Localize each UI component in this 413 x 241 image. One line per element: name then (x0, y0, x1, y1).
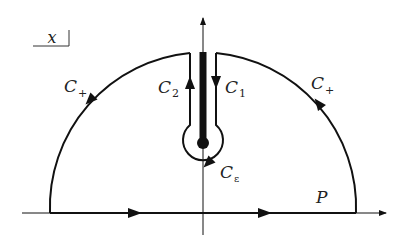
svg-text:C: C (311, 73, 324, 93)
svg-text:1: 1 (239, 87, 246, 100)
variable-label: x (47, 28, 56, 47)
variable-box: x (33, 28, 69, 47)
arrow-up-icon (185, 76, 195, 89)
svg-text:C: C (64, 76, 77, 96)
svg-text:P: P (315, 187, 328, 207)
label-c2: C 2 (158, 77, 179, 100)
svg-text:+: + (325, 84, 334, 97)
svg-text:C: C (158, 77, 171, 97)
branch-cut (197, 52, 209, 149)
label-p: P (315, 187, 328, 207)
label-c-plus-left: C + (64, 76, 87, 100)
arrow-icon (311, 95, 326, 111)
label-c-eps: C ε (220, 162, 239, 184)
svg-text:C: C (225, 77, 238, 97)
label-c1: C 1 (225, 77, 246, 100)
label-c-plus-right: C + (311, 73, 334, 97)
arrow-down-icon (211, 76, 221, 89)
svg-text:C: C (220, 162, 233, 182)
contour-diagram: x C + C + C 2 C (0, 0, 413, 241)
arrow-right-icon (128, 208, 142, 218)
svg-text:+: + (78, 87, 87, 100)
arrow-right-icon (258, 208, 272, 218)
svg-text:2: 2 (172, 87, 179, 100)
svg-text:ε: ε (234, 173, 239, 184)
branch-point (197, 137, 209, 149)
